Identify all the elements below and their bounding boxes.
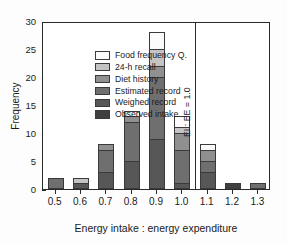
legend-swatch xyxy=(95,63,110,72)
legend-label: Observed intake xyxy=(115,110,178,119)
x-tick xyxy=(181,190,182,194)
legend-item: Observed intake xyxy=(95,109,187,120)
x-tick-label: 0.5 xyxy=(48,196,62,207)
x-tick-label: 0.8 xyxy=(124,196,138,207)
x-tick xyxy=(232,190,233,194)
legend-swatch xyxy=(95,51,110,60)
legend-swatch xyxy=(95,87,110,96)
y-tick-label: 10 xyxy=(25,129,36,139)
x-tick xyxy=(257,190,258,194)
legend-swatch xyxy=(95,110,110,119)
legend-item: Estimated record xyxy=(95,86,187,97)
x-tick xyxy=(156,190,157,194)
x-tick-label: 1.1 xyxy=(200,196,214,207)
x-tick-label: 1.3 xyxy=(250,196,264,207)
legend-label: Estimated record xyxy=(115,87,181,96)
y-tick-label: 20 xyxy=(25,73,36,83)
x-tick xyxy=(105,190,106,194)
legend-label: 24-h recall xyxy=(115,63,156,72)
plot-area: EI : EE = 1.0 Food frequency Q.24-h reca… xyxy=(42,22,270,190)
legend-label: Diet history xyxy=(115,75,158,84)
figure: 051015202530 Frequency EI : EE = 1.0 Foo… xyxy=(0,0,287,244)
y-axis-title: Frequency xyxy=(10,46,21,166)
x-tick-label: 1.2 xyxy=(225,196,239,207)
y-tick-label: 30 xyxy=(25,17,36,27)
legend-label: Weighed record xyxy=(115,98,176,107)
x-axis-title: Energy intake : energy expenditure xyxy=(42,222,270,234)
legend-item: 24-h recall xyxy=(95,62,187,73)
legend-swatch xyxy=(95,75,110,84)
legend-label: Food frequency Q. xyxy=(115,51,187,60)
legend-item: Weighed record xyxy=(95,98,187,109)
y-tick-label: 25 xyxy=(25,45,36,55)
x-tick xyxy=(80,190,81,194)
legend-item: Food frequency Q. xyxy=(95,50,187,61)
y-tick-label: 15 xyxy=(25,101,36,111)
x-tick-label: 0.9 xyxy=(149,196,163,207)
x-tick-label: 0.7 xyxy=(98,196,112,207)
x-tick xyxy=(207,190,208,194)
y-tick-label: 0 xyxy=(31,185,36,195)
y-axis-title-wrap: Frequency xyxy=(2,22,16,190)
y-tick-label: 5 xyxy=(31,157,36,167)
reference-line xyxy=(195,23,196,189)
x-tick xyxy=(131,190,132,194)
x-tick-label: 1.0 xyxy=(174,196,188,207)
x-tick-label: 0.6 xyxy=(73,196,87,207)
legend-swatch xyxy=(95,99,110,108)
x-tick xyxy=(55,190,56,194)
legend-item: Diet history xyxy=(95,74,187,85)
legend: Food frequency Q.24-h recallDiet history… xyxy=(95,50,187,120)
